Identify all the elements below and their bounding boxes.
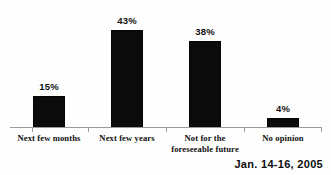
plot-area: 15% 43% 38% 4% bbox=[0, 0, 331, 128]
bar-not-for-foreseeable-future bbox=[189, 41, 221, 128]
bar-value-label: 4% bbox=[276, 103, 290, 114]
category-label-line1: Next few years bbox=[99, 133, 154, 143]
axis-tick bbox=[321, 128, 322, 132]
axis-tick bbox=[244, 128, 245, 132]
bar-next-few-years bbox=[111, 30, 143, 128]
bar-column: 43% bbox=[88, 0, 166, 128]
date-caption: Jan. 14-16, 2005 bbox=[234, 158, 323, 170]
category-label-line1: Next few months bbox=[17, 133, 80, 143]
bar-value-label: 15% bbox=[39, 81, 59, 92]
bar-column: 4% bbox=[244, 0, 322, 128]
bar-value-label: 38% bbox=[195, 26, 215, 37]
bar-group-next-few-years: 43% bbox=[88, 0, 166, 128]
bar-value-label: 43% bbox=[117, 15, 137, 26]
category-label-line1: Not for the bbox=[184, 133, 225, 143]
bar-column: 15% bbox=[10, 0, 88, 128]
bar-group-no-opinion: 4% bbox=[244, 0, 322, 128]
bar-next-few-months bbox=[33, 96, 65, 128]
axis-tick bbox=[32, 128, 33, 132]
category-label-line1: No opinion bbox=[262, 133, 303, 143]
axis-tick bbox=[166, 128, 167, 132]
axis-tick bbox=[88, 128, 89, 132]
bar-column: 38% bbox=[166, 0, 244, 128]
bar-chart: 15% 43% 38% 4% bbox=[0, 0, 331, 175]
bar-group-not-for-foreseeable-future: 38% bbox=[166, 0, 244, 128]
bar-group-next-few-months: 15% bbox=[10, 0, 88, 128]
category-label-no-opinion: No opinion bbox=[235, 133, 331, 144]
category-label-line2: foreseeable future bbox=[157, 144, 253, 155]
